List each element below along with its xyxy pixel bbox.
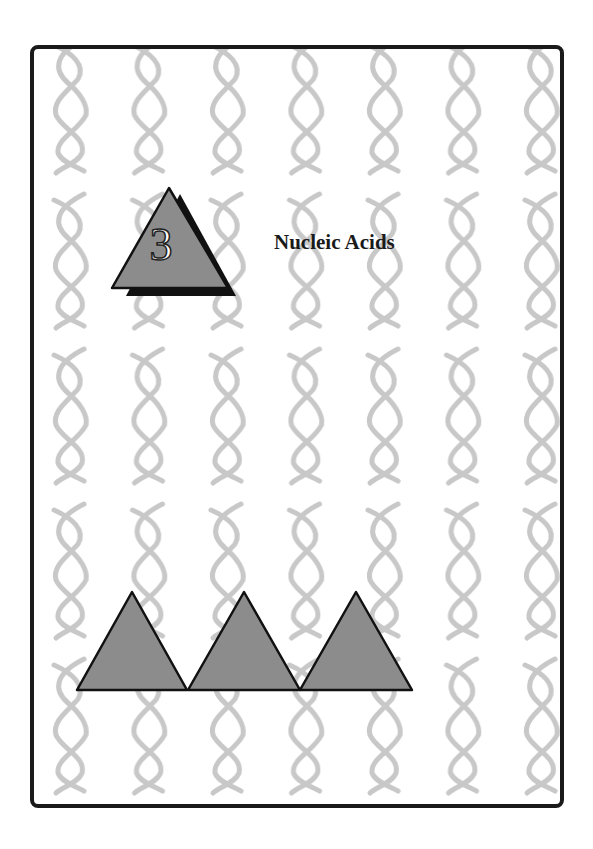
footer-triangles-icon — [74, 588, 416, 694]
chapter-number: 3 — [146, 222, 176, 268]
chapter-title: Nucleic Acids — [274, 230, 395, 255]
